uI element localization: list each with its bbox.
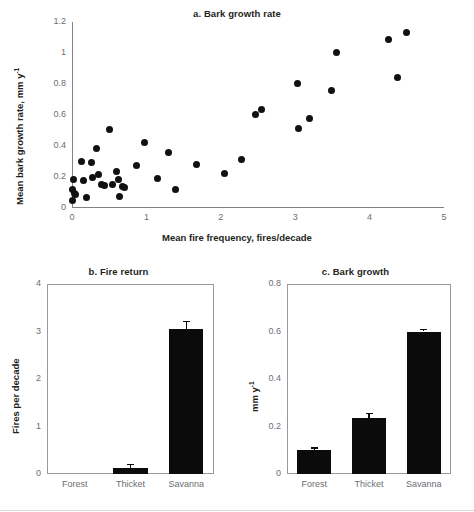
scatter-point bbox=[116, 193, 123, 200]
panel-a-title: a. Bark growth rate bbox=[0, 8, 474, 19]
error-bar-cap bbox=[183, 321, 190, 322]
figure-panels: a. Bark growth rate Mean bark growth rat… bbox=[0, 0, 474, 512]
scatter-point bbox=[295, 125, 302, 132]
scatter-point bbox=[333, 49, 340, 56]
scatter-point bbox=[294, 80, 301, 87]
bar bbox=[169, 329, 204, 474]
panel-a-plot-area bbox=[72, 22, 444, 208]
y-tick-label: 4 bbox=[5, 278, 41, 288]
y-tick-label: 0.4 bbox=[245, 373, 281, 383]
y-tick-label: 0.8 bbox=[245, 278, 281, 288]
scatter-point bbox=[403, 29, 410, 36]
x-tick-label: 3 bbox=[275, 212, 315, 222]
scatter-point bbox=[93, 145, 100, 152]
panel-b-title: b. Fire return bbox=[0, 266, 237, 277]
bar bbox=[352, 418, 386, 474]
scatter-point bbox=[113, 168, 120, 175]
scatter-point bbox=[115, 176, 122, 183]
bar bbox=[297, 450, 331, 474]
scatter-point bbox=[101, 182, 108, 189]
panel-c-title: c. Bark growth bbox=[237, 266, 474, 277]
x-tick-label: 2 bbox=[201, 212, 241, 222]
scatter-point bbox=[306, 115, 313, 122]
scatter-point bbox=[172, 186, 179, 193]
panel-b-bar-chart: b. Fire return Fires per decade 01234 Fo… bbox=[0, 262, 237, 512]
scatter-point bbox=[88, 159, 95, 166]
scatter-point bbox=[95, 171, 102, 178]
y-tick-label: 1 bbox=[5, 421, 41, 431]
scatter-point bbox=[193, 161, 200, 168]
y-tick-label: 2 bbox=[5, 373, 41, 383]
category-label: Thicket bbox=[103, 479, 159, 489]
scatter-point bbox=[258, 106, 265, 113]
y-tick-label: 0 bbox=[30, 202, 66, 212]
category-label: Forest bbox=[287, 479, 342, 489]
y-tick-label: 3 bbox=[5, 326, 41, 336]
panel-a-x-axis-title: Mean fire frequency, fires/decade bbox=[0, 232, 474, 243]
category-label: Thicket bbox=[342, 479, 397, 489]
scatter-point bbox=[165, 149, 172, 156]
figure-bottom-rule bbox=[0, 510, 474, 511]
panel-c-y-axis-title-text: mm y bbox=[249, 387, 260, 412]
category-label: Savanna bbox=[158, 479, 214, 489]
panel-a-y-axis-title-text: Mean bark growth rate, mm y bbox=[14, 74, 25, 205]
category-label: Savanna bbox=[396, 479, 451, 489]
panel-c-bar-chart: c. Bark growth mm y-1 00.20.40.60.8 Fore… bbox=[237, 262, 474, 512]
x-tick-label: 5 bbox=[424, 212, 464, 222]
scatter-point bbox=[221, 170, 228, 177]
error-bar-cap bbox=[366, 413, 373, 414]
bar bbox=[113, 468, 148, 474]
scatter-point bbox=[70, 176, 77, 183]
scatter-point bbox=[80, 177, 87, 184]
scatter-point bbox=[394, 74, 401, 81]
y-tick-label: 0.4 bbox=[30, 140, 66, 150]
scatter-point bbox=[72, 191, 79, 198]
scatter-point bbox=[238, 156, 245, 163]
y-tick-label: 0.2 bbox=[245, 421, 281, 431]
x-tick-label: 1 bbox=[126, 212, 166, 222]
error-bar-cap bbox=[311, 447, 318, 448]
y-tick-label: 0 bbox=[245, 468, 281, 478]
panel-a-y-axis-title-sup: -1 bbox=[13, 68, 20, 74]
scatter-point bbox=[154, 175, 161, 182]
category-label: Forest bbox=[47, 479, 103, 489]
bar bbox=[407, 332, 441, 475]
scatter-point bbox=[133, 162, 140, 169]
panel-a-x-axis-line bbox=[72, 207, 444, 208]
scatter-point bbox=[385, 36, 392, 43]
error-bar-cap bbox=[420, 329, 427, 330]
y-tick-label: 1 bbox=[30, 47, 66, 57]
y-tick-label: 1.2 bbox=[30, 16, 66, 26]
panel-a-scatter: a. Bark growth rate Mean bark growth rat… bbox=[0, 0, 474, 258]
error-bar-cap bbox=[127, 464, 134, 465]
x-tick-label: 0 bbox=[52, 212, 92, 222]
y-tick-label: 0 bbox=[5, 468, 41, 478]
scatter-point bbox=[83, 194, 90, 201]
panel-a-y-axis-title: Mean bark growth rate, mm y-1 bbox=[14, 68, 25, 205]
scatter-point bbox=[121, 184, 128, 191]
y-tick-label: 0.6 bbox=[245, 326, 281, 336]
scatter-point bbox=[106, 126, 113, 133]
scatter-point bbox=[141, 139, 148, 146]
panel-c-y-axis-title: mm y-1 bbox=[249, 381, 260, 412]
y-tick-label: 0.2 bbox=[30, 171, 66, 181]
y-tick-label: 0.8 bbox=[30, 78, 66, 88]
y-tick-label: 0.6 bbox=[30, 109, 66, 119]
x-tick-label: 4 bbox=[350, 212, 390, 222]
scatter-point bbox=[328, 87, 335, 94]
scatter-point bbox=[78, 158, 85, 165]
